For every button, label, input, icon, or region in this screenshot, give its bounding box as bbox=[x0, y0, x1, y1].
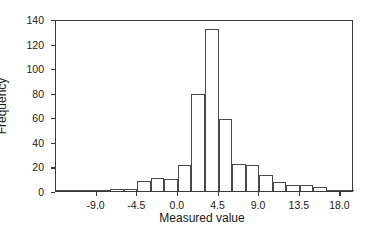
histogram-bar bbox=[259, 175, 273, 191]
x-tick-label: 13.5 bbox=[289, 200, 309, 211]
x-tick-mark bbox=[96, 192, 97, 196]
histogram-chart: 020406080100120140 -9.0-4.50.04.59.013.5… bbox=[0, 0, 368, 236]
y-tick-mark bbox=[51, 69, 55, 70]
histogram-bar bbox=[164, 179, 178, 191]
y-tick-mark bbox=[51, 167, 55, 168]
plot-area bbox=[55, 20, 353, 192]
y-tick-mark bbox=[51, 94, 55, 95]
histogram-bar bbox=[273, 182, 287, 191]
y-tick-label: 140 bbox=[26, 15, 44, 26]
x-tick-label: 18.0 bbox=[329, 200, 349, 211]
y-tick-label: 20 bbox=[32, 162, 44, 173]
histogram-bar bbox=[178, 165, 192, 191]
histogram-bar bbox=[151, 178, 165, 192]
x-tick-mark bbox=[258, 192, 259, 196]
y-tick-label: 80 bbox=[32, 88, 44, 99]
histogram-bar bbox=[56, 190, 70, 191]
histogram-bar bbox=[232, 164, 246, 191]
histogram-bar bbox=[340, 190, 354, 191]
y-tick-mark bbox=[51, 20, 55, 21]
x-tick-mark bbox=[177, 192, 178, 196]
x-axis-title: Measured value bbox=[0, 211, 368, 225]
x-tick-label: 0.0 bbox=[170, 200, 185, 211]
x-axis-title-text: Measured value bbox=[159, 211, 244, 225]
x-tick-label: 4.5 bbox=[210, 200, 225, 211]
y-tick-mark bbox=[51, 118, 55, 119]
x-tick-label: -9.0 bbox=[87, 200, 105, 211]
histogram-bar bbox=[70, 190, 84, 191]
x-tick-mark bbox=[218, 192, 219, 196]
histogram-bar bbox=[313, 187, 327, 191]
y-tick-label: 120 bbox=[26, 39, 44, 50]
bars-layer bbox=[56, 21, 352, 191]
x-tick-mark bbox=[299, 192, 300, 196]
histogram-bar bbox=[246, 165, 260, 191]
y-tick-mark bbox=[51, 45, 55, 46]
x-tick-label: 9.0 bbox=[251, 200, 266, 211]
y-axis-title: Frequency bbox=[0, 78, 9, 135]
histogram-bar bbox=[191, 94, 205, 191]
x-tick-mark bbox=[136, 192, 137, 196]
y-tick-label: 100 bbox=[26, 64, 44, 75]
histogram-bar bbox=[83, 190, 97, 191]
histogram-bar bbox=[219, 119, 233, 191]
y-tick-label: 60 bbox=[32, 113, 44, 124]
y-tick-mark bbox=[51, 143, 55, 144]
histogram-bar bbox=[137, 181, 151, 191]
y-tick-mark bbox=[51, 192, 55, 193]
y-tick-label: 40 bbox=[32, 138, 44, 149]
histogram-bar bbox=[205, 29, 219, 191]
x-tick-mark bbox=[339, 192, 340, 196]
histogram-bar bbox=[286, 185, 300, 191]
histogram-bar bbox=[124, 189, 138, 191]
histogram-bar bbox=[300, 185, 314, 191]
x-tick-label: -4.5 bbox=[127, 200, 145, 211]
histogram-bar bbox=[97, 190, 111, 191]
x-axis-tick-labels: -9.0-4.50.04.59.013.518.0 bbox=[0, 196, 368, 210]
histogram-bar bbox=[110, 189, 124, 191]
histogram-bar bbox=[327, 190, 341, 191]
